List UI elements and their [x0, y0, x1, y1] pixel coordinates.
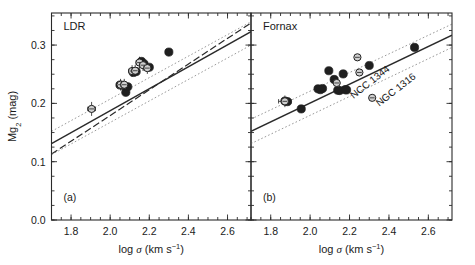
y-tick-label: 0.2	[31, 97, 46, 109]
x-tick-label: 2.2	[142, 225, 157, 237]
x-tick-label: 1.8	[263, 225, 278, 237]
x-tick-label: 2.0	[103, 225, 118, 237]
x-tick-label: 2.4	[382, 225, 397, 237]
data-point-filled	[365, 61, 373, 69]
y-tick-label: 0.1	[31, 156, 46, 168]
x-tick-label: 1.8	[64, 225, 79, 237]
data-point-filled	[325, 67, 333, 75]
data-point-filled	[410, 43, 418, 51]
data-point-filled	[297, 105, 305, 113]
x-tick-label: 2.6	[421, 225, 436, 237]
panel-b-tag: (b)	[263, 191, 276, 203]
data-point-filled	[165, 48, 173, 56]
data-point-filled	[318, 84, 326, 92]
x-tick-label: 2.2	[342, 225, 357, 237]
figure-root: 1.82.02.22.42.6 0.00.10.20.3 LDR (a) log…	[0, 0, 475, 265]
x-tick-label: 2.0	[303, 225, 318, 237]
y-tick-label: 0.0	[31, 214, 46, 226]
x-tick-label: 2.6	[220, 225, 235, 237]
panel-a-tag: (a)	[64, 191, 77, 203]
panel-a-title: LDR	[64, 20, 86, 32]
x-tick-label: 2.4	[181, 225, 196, 237]
y-tick-label: 0.3	[31, 39, 46, 51]
plot-canvas: 1.82.02.22.42.6 0.00.10.20.3 LDR (a) log…	[0, 0, 475, 265]
panel-b-title: Fornax	[263, 20, 298, 32]
data-point-filled	[339, 70, 347, 78]
